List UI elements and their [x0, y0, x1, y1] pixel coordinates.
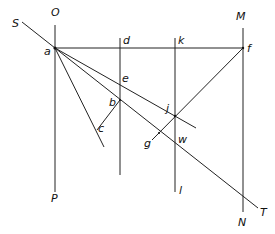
label-b: b [109, 96, 116, 109]
label-w: w [178, 133, 187, 146]
label-m: M [236, 10, 246, 23]
label-s: S [12, 17, 19, 30]
label-c: c [98, 122, 104, 135]
label-k: k [178, 34, 185, 47]
label-d: d [123, 34, 131, 47]
line-a-c [55, 48, 104, 147]
point-g [158, 132, 160, 134]
line-f-g [152, 48, 243, 140]
label-f: f [247, 42, 253, 55]
point-a [53, 46, 56, 49]
geometric-construction-diagram: O S a d k M f e b c j g w l P N T [0, 0, 275, 234]
label-l: l [179, 184, 182, 197]
label-o: O [51, 6, 60, 19]
label-p: P [51, 192, 58, 205]
label-e: e [122, 72, 129, 85]
label-t: T [260, 206, 268, 219]
label-a: a [44, 45, 51, 58]
point-f [242, 47, 244, 49]
label-g: g [144, 137, 151, 150]
point-j [174, 115, 176, 117]
label-n: N [238, 216, 246, 229]
point-b [119, 99, 121, 101]
